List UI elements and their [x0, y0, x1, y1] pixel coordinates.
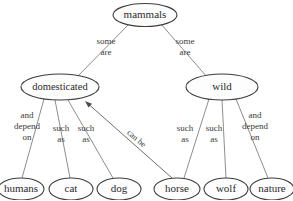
label-such-as-horse: suchas — [177, 123, 194, 144]
node-mammals[interactable]: mammals — [113, 4, 177, 27]
node-dog[interactable]: dog — [97, 178, 141, 200]
can-be-arrow — [85, 101, 172, 178]
can-be-label: can be — [125, 127, 148, 149]
node-label-horse: horse — [165, 182, 189, 194]
node-label-wolf: wolf — [216, 182, 237, 194]
rotated-edge-label: can be — [125, 127, 148, 149]
node-label-wild: wild — [212, 80, 232, 92]
node-humans[interactable]: humans — [0, 178, 44, 200]
node-label-humans: humans — [4, 182, 38, 194]
node-label-domesticated: domesticated — [32, 81, 88, 92]
node-wolf[interactable]: wolf — [204, 178, 248, 200]
label-such-as-dog: suchas — [78, 123, 95, 144]
label-some-are-right: someare — [176, 36, 195, 57]
node-nature[interactable]: nature — [250, 178, 293, 200]
arrow-line — [88, 104, 172, 178]
edge-domesticated-dog — [68, 100, 113, 178]
node-domesticated[interactable]: domesticated — [21, 74, 99, 100]
node-wild[interactable]: wild — [186, 74, 258, 100]
label-and-depend-on-l: anddependon — [14, 110, 40, 142]
label-and-depend-on-r: anddependon — [242, 110, 268, 142]
diagram-canvas: somearesomeareanddependonsuchassuchassuc… — [0, 0, 293, 200]
label-such-as-wolf: suchas — [206, 123, 223, 144]
node-label-cat: cat — [65, 182, 78, 194]
node-label-mammals: mammals — [124, 8, 167, 20]
concept-map-svg: somearesomeareanddependonsuchassuchassuc… — [0, 0, 293, 200]
connector-group — [22, 24, 268, 178]
node-horse[interactable]: horse — [154, 178, 200, 200]
node-label-nature: nature — [258, 182, 286, 194]
node-label-dog: dog — [111, 182, 128, 194]
label-such-as-cat: suchas — [53, 123, 70, 144]
node-group: mammalsdomesticatedwildhumanscatdoghorse… — [0, 4, 293, 201]
label-some-are-left: someare — [97, 36, 116, 57]
node-cat[interactable]: cat — [49, 178, 93, 200]
edge-wild-wolf — [222, 100, 226, 178]
